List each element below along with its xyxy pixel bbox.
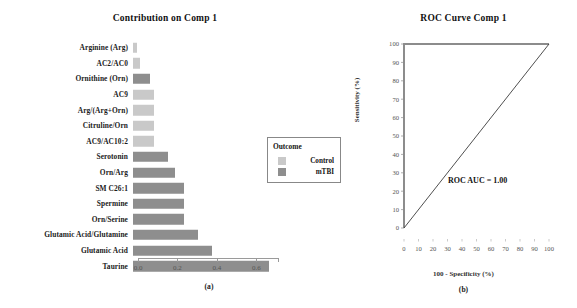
bar-fill [133, 136, 154, 147]
bar-row: Glutamic Acid/Glutamine [0, 227, 300, 243]
bar-category-label: Arg/(Arg+Orn) [0, 106, 133, 115]
bar-row: Serotonin [0, 149, 300, 165]
panel-a-x-axis: 0.00.20.40.6 [138, 258, 279, 259]
bar-row: AC9/AC10:2 [0, 134, 300, 150]
bar-fill [133, 152, 168, 163]
roc-x-tick-label: 80 [517, 245, 524, 252]
roc-y-tick-label: 90 [392, 59, 399, 66]
bar-row: Arg/(Arg+Orn) [0, 102, 300, 118]
bar-row: AC9 [0, 87, 300, 103]
bar-track [133, 87, 300, 103]
bar-fill [133, 261, 269, 272]
bar-row: AC2/AC0 [0, 56, 300, 72]
roc-x-tick-label: 0 [402, 245, 406, 252]
roc-x-tick-label: 100 [544, 245, 555, 252]
bar-fill [133, 245, 212, 256]
roc-x-tick-label: 10 [415, 245, 422, 252]
roc-x-tick-label: 30 [444, 245, 451, 252]
roc-y-tick-label: 50 [392, 132, 399, 139]
bar-row: Glutamic Acid [0, 243, 300, 259]
bar-fill [133, 214, 184, 225]
legend-item: Control [273, 155, 335, 166]
bar-fill [133, 89, 154, 100]
bar-fill [133, 74, 150, 85]
bar-category-label: Arginine (Arg) [0, 43, 133, 52]
panel-b-caption: (b) [350, 285, 577, 294]
roc-auc-annotation: ROC AUC = 1.00 [448, 176, 507, 185]
legend-swatch [278, 168, 286, 176]
legend-items: ControlmTBI [273, 155, 335, 177]
legend-label: Control [286, 157, 335, 165]
bar-track [133, 56, 300, 72]
bar-row: Orn/Arg [0, 165, 300, 181]
legend-swatch [278, 157, 286, 165]
bar-row: SM C26:1 [0, 180, 300, 196]
bar-row: Arginine (Arg) [0, 40, 300, 56]
roc-reference-diagonal [404, 44, 549, 228]
bar-track [133, 40, 300, 56]
x-axis-end-cap [278, 258, 279, 262]
bar-fill [133, 121, 154, 132]
roc-x-tick-label: 20 [430, 245, 437, 252]
bar-track [133, 102, 300, 118]
bar-fill [133, 43, 137, 54]
figure-container: Contribution on Comp 1 Arginine (Arg)AC2… [0, 0, 577, 308]
roc-x-tick-label: 60 [488, 245, 495, 252]
bar-track [133, 212, 300, 228]
bar-track [133, 118, 300, 134]
legend-box: Outcome ControlmTBI [267, 137, 341, 183]
legend-title: Outcome [273, 142, 335, 151]
bar-fill [133, 230, 198, 241]
x-axis-tick-label: 0.6 [252, 264, 261, 272]
roc-y-tick-label: 20 [392, 188, 399, 195]
bar-category-label: Taurine [0, 262, 133, 271]
roc-x-tick-label: 50 [473, 245, 480, 252]
bar-category-label: AC9/AC10:2 [0, 137, 133, 146]
bar-row: Citruline/Orn [0, 118, 300, 134]
bar-category-label: AC2/AC0 [0, 59, 133, 68]
roc-x-tick-label: 40 [459, 245, 466, 252]
bar-category-label: Serotonin [0, 152, 133, 161]
bar-track [133, 227, 300, 243]
bar-category-label: SM C26:1 [0, 184, 133, 193]
roc-y-tick-label: 70 [392, 96, 399, 103]
bar-track [133, 243, 300, 259]
bar-category-label: Glutamic Acid [0, 246, 133, 255]
panel-b-x-axis-label: 100 - Specificity (%) [350, 270, 577, 278]
bar-row: Ornithine (Orn) [0, 71, 300, 87]
bar-row: Spermine [0, 196, 300, 212]
panel-a-caption: (a) [138, 282, 280, 291]
bar-fill [133, 105, 154, 116]
bar-category-label: Citruline/Orn [0, 121, 133, 130]
bar-category-label: Ornithine (Orn) [0, 74, 133, 83]
bar-category-label: Orn/Arg [0, 168, 133, 177]
legend-item: mTBI [273, 166, 335, 177]
bar-track [133, 196, 300, 212]
x-axis-tick [217, 258, 218, 262]
bar-fill [133, 198, 184, 209]
roc-y-tick-label: 10 [392, 206, 399, 213]
roc-x-tick-label: 90 [531, 245, 538, 252]
panel-b-y-axis-label: Sensitivity (%) [353, 45, 361, 155]
x-axis-tick-label: 0.0 [134, 264, 143, 272]
bar-fill [133, 167, 175, 178]
bar-chart-rows: Arginine (Arg)AC2/AC0Ornithine (Orn)AC9A… [0, 40, 300, 274]
x-axis-tick-label: 0.2 [173, 264, 182, 272]
x-axis-tick [138, 258, 139, 262]
bar-category-label: Spermine [0, 199, 133, 208]
bar-category-label: Orn/Serine [0, 215, 133, 224]
roc-x-tick-label: 70 [502, 245, 509, 252]
legend-label: mTBI [286, 168, 335, 176]
bar-fill [133, 183, 184, 194]
roc-curve-svg: 0102030405060708090100010203040506070809… [382, 38, 557, 262]
roc-y-tick-label: 40 [392, 151, 399, 158]
roc-y-tick-label: 60 [392, 114, 399, 121]
panel-a-title: Contribution on Comp 1 [0, 13, 330, 23]
bar-fill [133, 58, 140, 69]
x-axis-tick [177, 258, 178, 262]
panel-b-roc-chart: ROC Curve Comp 1 01020304050607080901000… [350, 0, 577, 308]
roc-y-tick-label: 0 [396, 224, 400, 231]
panel-b-title: ROC Curve Comp 1 [350, 13, 577, 23]
x-axis-tick-label: 0.4 [212, 264, 221, 272]
bar-category-label: Glutamic Acid/Glutamine [0, 230, 133, 239]
